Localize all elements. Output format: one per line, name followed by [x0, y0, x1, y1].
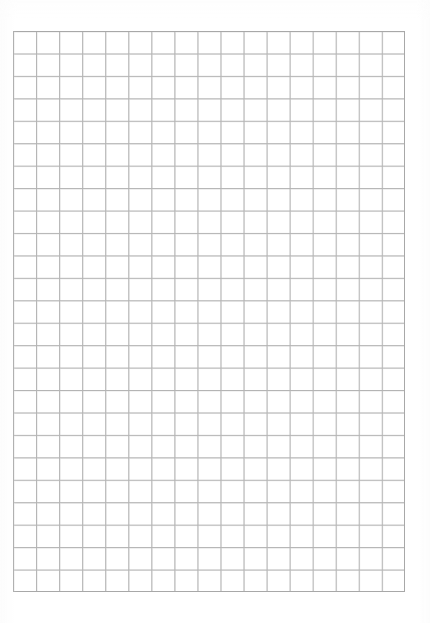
grid-lines — [13, 31, 405, 592]
graph-paper-grid — [13, 31, 405, 592]
page-canvas: Blank graph paper sheet — [0, 0, 430, 623]
